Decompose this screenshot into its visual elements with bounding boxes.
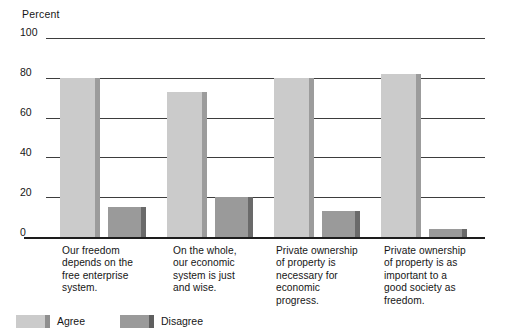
category-label-2-line-1: of property is [276, 257, 388, 269]
legend-label-agree: Agree [57, 315, 85, 327]
y-tick-60: 60 [0, 106, 42, 118]
bar-agree-1 [167, 92, 207, 237]
bar-side [462, 229, 467, 237]
bar-side [416, 74, 421, 237]
bar-side [309, 78, 314, 237]
y-tick-100: 100 [0, 26, 42, 38]
category-label-0-line-2: free enterprise [62, 270, 162, 282]
bar-disagree-1 [215, 197, 253, 237]
category-label-0-line-3: system. [62, 282, 162, 294]
bar-disagree-3 [429, 229, 467, 237]
y-tick-80: 80 [0, 66, 42, 78]
category-label-1-line-2: system is just [173, 270, 273, 282]
legend-label-disagree: Disagree [161, 315, 203, 327]
chart-legend: Agree Disagree [0, 311, 505, 333]
legend-swatch-disagree-icon [120, 315, 154, 328]
bar-side [141, 207, 146, 237]
y-tick-label-60: 60 [20, 107, 32, 118]
bar-face [429, 229, 462, 237]
bar-agree-0 [60, 78, 100, 237]
bar-chart: Percent 100 80 60 40 20 0 [0, 0, 505, 336]
category-label-0: Our freedom depends on the free enterpri… [62, 245, 162, 295]
category-label-2-line-3: economic [276, 282, 388, 294]
bar-face [167, 92, 202, 237]
plot-area [46, 38, 485, 237]
legend-swatch-agree-icon [16, 315, 50, 328]
bar-face [215, 197, 248, 237]
bar-group-1 [167, 38, 267, 237]
y-tick-40: 40 [0, 146, 42, 158]
bar-disagree-2 [322, 211, 360, 237]
category-label-1-line-1: our economic [173, 257, 273, 269]
y-tick-label-40: 40 [20, 147, 32, 158]
bar-group-0 [60, 38, 160, 237]
legend-item-agree[interactable]: Agree [16, 311, 85, 331]
bar-group-2 [274, 38, 374, 237]
category-label-2-line-2: necessary for [276, 270, 388, 282]
bar-side [248, 197, 253, 237]
category-label-2-line-0: Private ownership [276, 245, 388, 257]
category-label-0-line-0: Our freedom [62, 245, 162, 257]
x-axis-line [24, 237, 485, 239]
bar-disagree-0 [108, 207, 146, 237]
category-label-2-line-4: progress. [276, 295, 388, 307]
bar-face [274, 78, 309, 237]
category-label-3-line-2: important to a [384, 270, 499, 282]
swatch-face [120, 315, 149, 328]
bar-face [60, 78, 95, 237]
category-label-3-line-3: good society as [384, 282, 499, 294]
bar-side [202, 92, 207, 237]
bar-agree-3 [381, 74, 421, 237]
y-tick-label-100: 100 [20, 27, 38, 38]
category-label-3: Private ownership of property is as impo… [384, 245, 499, 307]
category-label-1: On the whole, our economic system is jus… [173, 245, 273, 295]
category-label-3-line-4: freedom. [384, 295, 499, 307]
bar-side [95, 78, 100, 237]
bar-agree-2 [274, 78, 314, 237]
bar-face [381, 74, 416, 237]
swatch-side [149, 315, 154, 328]
swatch-face [16, 315, 45, 328]
bar-face [108, 207, 141, 237]
swatch-side [45, 315, 50, 328]
bar-side [355, 211, 360, 237]
y-tick-20: 20 [0, 186, 42, 198]
y-tick-label-80: 80 [20, 67, 32, 78]
category-label-2: Private ownership of property is necessa… [276, 245, 388, 307]
y-tick-label-20: 20 [20, 187, 32, 198]
legend-item-disagree[interactable]: Disagree [120, 311, 203, 331]
category-label-1-line-0: On the whole, [173, 245, 273, 257]
bar-group-3 [381, 38, 481, 237]
category-label-3-line-1: of property is as [384, 257, 499, 269]
y-axis-title: Percent [22, 8, 60, 20]
category-label-3-line-0: Private ownership [384, 245, 499, 257]
bar-face [322, 211, 355, 237]
category-label-0-line-1: depends on the [62, 257, 162, 269]
category-label-1-line-3: and wise. [173, 282, 273, 294]
